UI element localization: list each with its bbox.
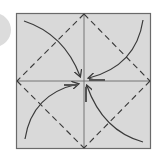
side-circle bbox=[0, 13, 11, 47]
origami-diagram bbox=[0, 0, 161, 161]
